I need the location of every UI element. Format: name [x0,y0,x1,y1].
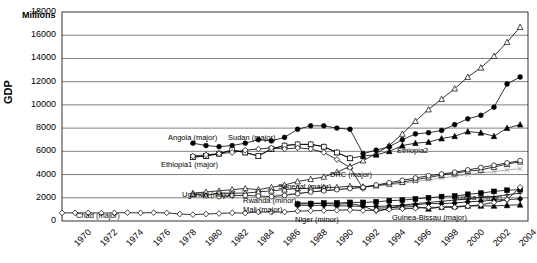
series-label: Guinea-Bissau (major) [392,213,467,222]
y-tick-label: 12000 [22,76,56,86]
series-label: Angola (major) [168,133,217,142]
y-tick-label: 6000 [22,145,56,155]
plot-area [0,0,537,263]
y-tick-label: 16000 [22,29,56,39]
series-label: Ethiopia2 [397,146,428,155]
series-label: Senegal (major) [278,182,331,191]
series-label: Niger (minor) [295,215,339,224]
series-label: Sudan (major) [228,133,276,142]
series-label: Ethiopia1 (major) [161,160,218,169]
y-tick-label: 14000 [22,52,56,62]
y-tick-label: 0 [22,215,56,225]
y-tick-label: 10000 [22,99,56,109]
series-label: Guinea (minor) [452,193,502,202]
y-tick-label: 8000 [22,122,56,132]
y-tick-label: 4000 [22,169,56,179]
series-label: DRC (major) [330,170,372,179]
series-label: Rwanda (minor) [243,196,296,205]
y-tick-label: 18000 [22,6,56,16]
gdp-line-chart: GDP Millions 020004000600080001000012000… [0,0,537,263]
y-tick-label: 2000 [22,192,56,202]
series-label: Mali (major) [243,205,283,214]
series-label: Uganda (major) [182,190,234,199]
series-label: Chad (major) [76,211,120,220]
